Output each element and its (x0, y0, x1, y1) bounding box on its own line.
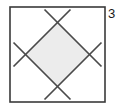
geometry-figure: 3 (0, 0, 122, 110)
inscribed-diamond-shape (26, 23, 89, 86)
side-length-label: 3 (108, 7, 115, 20)
geometry-diagram-svg (0, 0, 122, 110)
